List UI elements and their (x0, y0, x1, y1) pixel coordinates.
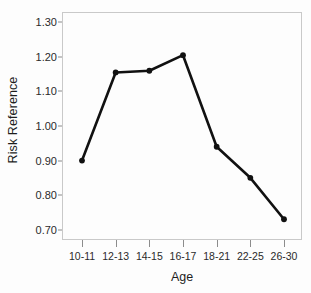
x-axis-tick-label: 26-30 (271, 250, 298, 262)
x-axis-tick-label: 18-21 (203, 250, 230, 262)
y-axis-tick-label: 0.90 (36, 155, 57, 167)
x-axis-tick-label: 14-15 (136, 250, 163, 262)
y-axis-tick-label: 0.70 (36, 224, 57, 236)
y-axis-title: Risk Reference (0, 0, 26, 240)
x-axis-title: Age (62, 270, 302, 284)
y-axis-tick-label: 0.80 (36, 189, 57, 201)
x-axis-tick-mark (149, 240, 150, 247)
y-axis-tick-label: 1.00 (36, 120, 57, 132)
x-axis-tick-mark (217, 240, 218, 247)
x-axis-tick-mark (284, 240, 285, 247)
y-axis-tick-label: 1.20 (36, 51, 57, 63)
x-axis-tick-label: 16-17 (170, 250, 197, 262)
y-axis-tick-labels: 0.700.800.901.001.101.201.30 (26, 0, 62, 240)
x-axis-tick-labels: 10-1112-1314-1516-1718-2122-2526-30 (62, 250, 302, 268)
y-axis-tick-label: 1.30 (36, 16, 57, 28)
y-axis-title-text: Risk Reference (6, 77, 20, 164)
x-axis-tick-mark (82, 240, 83, 247)
x-axis-tick-mark (116, 240, 117, 247)
x-axis-tick-label: 22-25 (237, 250, 264, 262)
x-axis-tick-label: 10-11 (69, 250, 95, 262)
x-axis-tick-label: 12-13 (102, 250, 129, 262)
y-axis-tick-label: 1.10 (36, 85, 57, 97)
x-axis-tick-mark (183, 240, 184, 247)
x-axis-tick-mark (250, 240, 251, 247)
plot-frame (62, 12, 302, 240)
risk-reference-line-chart: Risk Reference 0.700.800.901.001.101.201… (0, 0, 311, 293)
